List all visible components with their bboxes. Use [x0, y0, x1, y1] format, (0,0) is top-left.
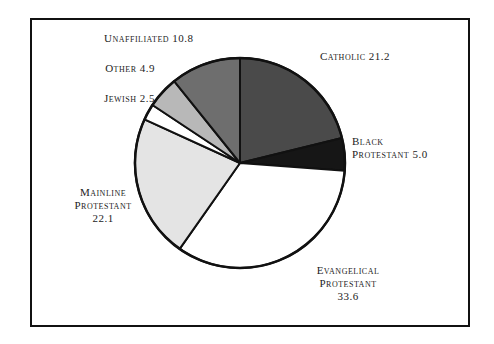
pie-label-evangelical-protestant: Evangelical Protestant 33.6 — [282, 264, 414, 303]
pie-chart-figure: Unaffiliated 10.8 Other 4.9 Jewish 2.5 C… — [0, 0, 494, 344]
pie-label-black-protestant: Black Protestant 5.0 — [352, 135, 480, 161]
pie-label-unaffiliated: Unaffiliated 10.8 — [104, 32, 264, 45]
pie-label-catholic: Catholic 21.2 — [320, 50, 470, 63]
pie-label-jewish: Jewish 2.5 — [50, 92, 155, 105]
pie-label-other: Other 4.9 — [50, 62, 155, 75]
pie-label-mainline-protestant: Mainline Protestant 22.1 — [48, 186, 158, 225]
pie-slice-group — [135, 58, 345, 268]
